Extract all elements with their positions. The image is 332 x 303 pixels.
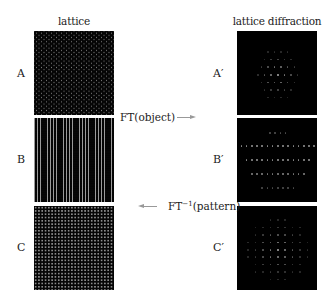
diffraction-spot: [284, 227, 286, 229]
diffraction-spot: [272, 159, 274, 161]
diffraction-spot: [299, 264, 301, 266]
diffraction-spot: [284, 234, 286, 236]
diffraction-spot: [255, 256, 257, 258]
diffraction-spot: [270, 271, 272, 273]
diffraction-spot: [282, 159, 284, 161]
diffraction-spot: [277, 89, 279, 91]
diffraction-spot: [262, 271, 264, 273]
diffraction-spot: [292, 271, 294, 273]
diffraction-spot: [307, 242, 309, 244]
diffraction-spot: [274, 51, 276, 53]
diffraction-spot: [246, 159, 248, 161]
diffraction-spot: [293, 159, 295, 161]
diffraction-spot: [277, 59, 279, 61]
diffraction-spot: [280, 51, 282, 53]
diffraction-spot: [282, 173, 284, 175]
diffraction-spot: [292, 256, 294, 258]
diffraction-spot: [282, 145, 284, 147]
diffraction-spot: [299, 256, 301, 258]
diffraction-spot: [264, 74, 266, 76]
diffraction-spot: [294, 82, 296, 84]
diffraction-spot: [247, 242, 249, 244]
diffraction-spot: [284, 249, 286, 251]
diffraction-spot: [299, 242, 301, 244]
diffraction-spot: [293, 187, 295, 189]
diffraction-spot: [292, 227, 294, 229]
diffraction-spot: [287, 51, 289, 53]
ft-inverse-prefix: FT: [168, 200, 182, 212]
diffraction-spot: [262, 256, 264, 258]
diffraction-spot: [267, 97, 269, 99]
diffraction-spot: [274, 132, 276, 134]
diffraction-spot: [277, 173, 279, 175]
diffraction-spot: [251, 159, 253, 161]
lattice-column-title: lattice: [34, 15, 114, 27]
diffraction-panel-a-prime: [237, 31, 317, 115]
diffraction-spot: [277, 227, 279, 229]
diffraction-spot: [267, 173, 269, 175]
diffraction-spot: [298, 159, 300, 161]
diffraction-spot: [269, 132, 271, 134]
diffraction-spot: [272, 145, 274, 147]
row-label-b: B: [17, 153, 25, 166]
diffraction-spot: [307, 249, 309, 251]
diffraction-spot: [287, 66, 289, 68]
diffraction-spot: [262, 234, 264, 236]
diffraction-spot: [261, 66, 263, 68]
diffraction-spot: [277, 242, 279, 244]
diffraction-spot: [264, 59, 266, 61]
lattice-panel-a: [34, 31, 114, 115]
diffraction-spot: [299, 249, 301, 251]
diffraction-spot: [251, 173, 253, 175]
diffraction-spot: [294, 66, 296, 68]
diffraction-spot: [274, 82, 276, 84]
diffraction-spot: [280, 132, 282, 134]
diffraction-spot: [287, 97, 289, 99]
diffraction-spot: [267, 145, 269, 147]
diffraction-spot: [292, 249, 294, 251]
diffraction-spot: [299, 227, 301, 229]
diffraction-spot: [277, 74, 279, 76]
diffraction-spot: [297, 74, 299, 76]
diffraction-spot: [298, 173, 300, 175]
diffraction-spot: [307, 256, 309, 258]
diffraction-spot: [261, 145, 263, 147]
diffraction-spot: [261, 82, 263, 84]
diffraction-spot: [293, 173, 295, 175]
diffraction-spot: [267, 159, 269, 161]
diffraction-spot: [270, 256, 272, 258]
diffraction-spot: [256, 145, 258, 147]
diffraction-spot: [303, 145, 305, 147]
forward-arrow-line: [177, 117, 191, 118]
diffraction-spot: [255, 264, 257, 266]
diffraction-spot: [270, 279, 272, 281]
diffraction-spot: [285, 132, 287, 134]
forward-transform-label: FT(object): [120, 111, 175, 123]
diffraction-spot: [274, 97, 276, 99]
diffraction-spot: [277, 145, 279, 147]
diffraction-panel-b-prime: [237, 118, 317, 202]
diffraction-spot: [255, 227, 257, 229]
inverse-arrow-line: [143, 206, 157, 207]
diffraction-spot: [292, 242, 294, 244]
diffraction-spot: [255, 234, 257, 236]
diffraction-spot: [290, 59, 292, 61]
row-label-c: C: [17, 241, 25, 254]
diffraction-spot: [277, 264, 279, 266]
diffraction-spot: [262, 242, 264, 244]
lattice-panel-c: [34, 206, 114, 290]
diffraction-spot: [290, 74, 292, 76]
diffraction-spot: [270, 249, 272, 251]
diffraction-spot: [256, 173, 258, 175]
diffraction-spot: [262, 264, 264, 266]
diffraction-spot: [282, 187, 284, 189]
diffraction-spot: [261, 173, 263, 175]
diffraction-spot: [262, 249, 264, 251]
diffraction-spot: [284, 89, 286, 91]
diffraction-spot: [251, 145, 253, 147]
diffraction-spot: [313, 145, 315, 147]
diffraction-spot: [270, 89, 272, 91]
diffraction-spot: [246, 145, 248, 147]
diffraction-spot: [284, 264, 286, 266]
diffraction-spot: [293, 145, 295, 147]
